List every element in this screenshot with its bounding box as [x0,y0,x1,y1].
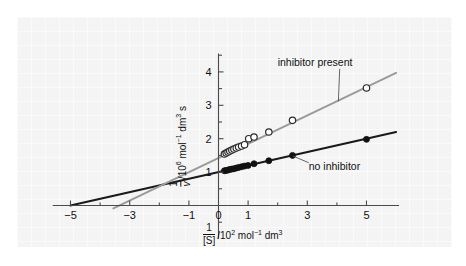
x-axis-label-numerator: 1 [206,223,212,233]
y-axis-label-denominator: v [183,181,193,186]
data-point-inhibitor-present [289,117,295,123]
y-units-exp3: 3 [175,114,182,118]
y-tick-label: 3 [205,99,211,111]
y-axis-label: 1 v /106 mol−1 dm3 s [169,47,192,187]
x-tick-label: −3 [123,209,136,221]
x-units-pre: /10 [217,230,231,241]
y-tick-label: 1 [205,166,211,178]
y-units-tail: s [176,106,187,114]
x-units-mid: mol [235,230,254,241]
data-point-inhibitor-present [266,129,272,135]
x-tick-label: 0 [215,209,221,221]
annotation-no-inhibitor: no inhibitor [309,160,361,172]
x-tick-label: −5 [64,209,77,221]
y-units-post: dm [176,118,187,135]
y-tick-label: 2 [205,133,211,145]
data-point-no-inhibitor [266,158,272,164]
x-tick-label: 3 [304,209,310,221]
y-units-mid: mol [176,142,187,161]
annotation-leader [338,69,339,101]
x-axis-label-denominator: [S] [203,236,215,246]
x-tick-label: 1 [245,209,251,221]
annotation-leader [293,156,309,163]
data-point-inhibitor-present [241,142,247,148]
x-units-exp2: −1 [254,229,262,236]
y-tick-label: 4 [205,66,211,78]
data-point-no-inhibitor [290,152,296,158]
y-axis-label-numerator: 1 [169,181,179,187]
y-units-pre: /10 [176,165,187,179]
axes-layer [53,54,399,239]
data-point-no-inhibitor [245,162,251,168]
x-tick-label: 5 [363,209,369,221]
data-point-no-inhibitor [251,161,257,167]
x-axis-label: 1 [S] /102 mol−1 dm3 [203,223,283,246]
x-units-exp3: 3 [279,229,283,236]
x-units-post: dm [262,230,279,241]
data-point-inhibitor-present [251,134,257,140]
data-point-inhibitor-present [363,85,369,91]
annotation-inhibitor-present: inhibitor present [278,56,353,68]
figure-container: −5−3−101351234inhibitor presentno inhibi… [0,0,466,266]
y-units-exp2: −1 [175,134,182,142]
data-point-no-inhibitor [364,136,370,142]
series-layer [71,73,397,209]
x-tick-label: −1 [183,209,196,221]
y-units-exp: 6 [175,161,182,165]
